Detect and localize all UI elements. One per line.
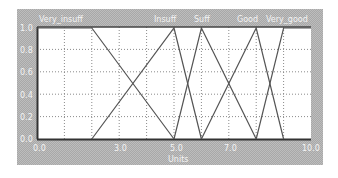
y-tick-0.4: 0.4	[20, 91, 33, 100]
y-tick-0.0: 0.0	[20, 135, 33, 144]
x-tick-3: 3.0	[114, 144, 127, 153]
y-tick-0.8: 0.8	[20, 46, 33, 55]
membership-function-chart: Very_insuff Insuff Suff Good Very_good 1…	[0, 0, 338, 178]
x-tick-7: 7.0	[224, 144, 237, 153]
label-suff: Suff	[194, 15, 210, 24]
label-very-insuff: Very_insuff	[39, 15, 83, 24]
label-good: Good	[237, 15, 258, 24]
x-tick-10: 10.0	[302, 144, 320, 153]
y-tick-0.6: 0.6	[20, 68, 33, 77]
x-tick-0: 0.0	[33, 144, 46, 153]
label-insuff: Insuff	[154, 15, 177, 24]
label-very-good: Very_good	[266, 15, 308, 24]
x-axis-label: Units	[168, 155, 188, 164]
x-tick-5: 5.0	[170, 144, 183, 153]
y-tick-0.2: 0.2	[20, 113, 33, 122]
y-tick-1.0: 1.0	[20, 24, 33, 33]
